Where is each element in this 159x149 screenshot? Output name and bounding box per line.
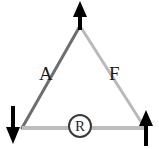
bottom-left-arrow-down-icon (6, 106, 20, 144)
edge-label-f: F (109, 64, 120, 83)
edge-label-a: A (39, 64, 53, 83)
figure-canvas: A F R (0, 0, 159, 149)
apex-arrow-up-icon (73, 1, 87, 30)
circled-label-r: R (68, 114, 92, 138)
